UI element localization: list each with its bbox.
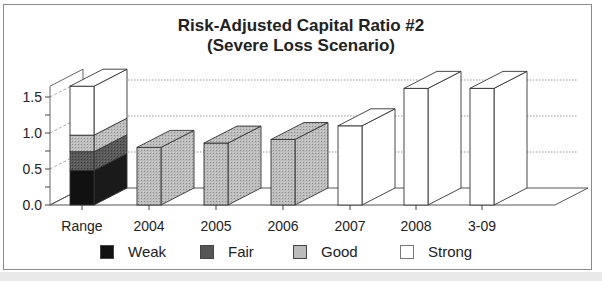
- bar-3-09: [470, 71, 527, 205]
- y-tick-label: 0.5: [23, 161, 43, 177]
- x-tick-label: 2007: [334, 218, 365, 234]
- plot-area: 0.00.51.01.5Range200420052006200720083-0…: [0, 0, 602, 281]
- legend-swatch-good: [293, 245, 307, 259]
- legend-item-good: Good: [293, 243, 358, 260]
- x-tick-label: 2006: [267, 218, 298, 234]
- legend-label: Weak: [128, 243, 166, 260]
- x-tick-label: 2004: [133, 218, 164, 234]
- x-tick-label: 3-09: [468, 218, 496, 234]
- y-tick-label: 1.0: [23, 125, 43, 141]
- legend-swatch-strong: [400, 245, 414, 259]
- bar-2004: [137, 130, 194, 205]
- legend-item-weak: Weak: [100, 243, 166, 260]
- x-tick-label: 2005: [200, 218, 231, 234]
- legend-label: Strong: [428, 243, 472, 260]
- legend-swatch-fair: [200, 245, 214, 259]
- legend-item-strong: Strong: [400, 243, 472, 260]
- legend-label: Good: [321, 243, 358, 260]
- legend: Weak Fair Good Strong: [0, 243, 602, 265]
- bar-2006: [271, 122, 328, 205]
- x-tick-label: 2008: [400, 218, 431, 234]
- y-tick-label: 1.5: [23, 89, 43, 105]
- bar-2008: [404, 71, 461, 205]
- legend-swatch-weak: [100, 245, 114, 259]
- legend-item-fair: Fair: [200, 243, 254, 260]
- x-tick-label: Range: [61, 218, 102, 234]
- bar-2007: [338, 109, 395, 205]
- bars: [70, 69, 527, 205]
- legend-label: Fair: [228, 243, 254, 260]
- bar-2005: [204, 126, 261, 205]
- y-tick-label: 0.0: [23, 197, 43, 213]
